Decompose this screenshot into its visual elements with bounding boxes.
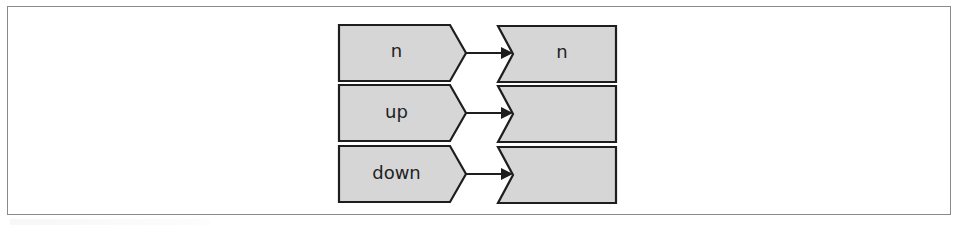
source-port-n <box>339 25 466 81</box>
cropped-caption-remnant <box>10 219 210 225</box>
mapping-row-1 <box>339 25 616 82</box>
mapping-row-2 <box>339 85 616 142</box>
source-port-up <box>339 85 466 141</box>
target-port-empty <box>498 86 616 142</box>
target-port-n <box>498 26 616 82</box>
source-port-down <box>339 146 466 202</box>
mapping-row-3 <box>339 146 616 203</box>
mapping-diagram <box>0 0 959 229</box>
target-port-empty <box>498 147 616 203</box>
